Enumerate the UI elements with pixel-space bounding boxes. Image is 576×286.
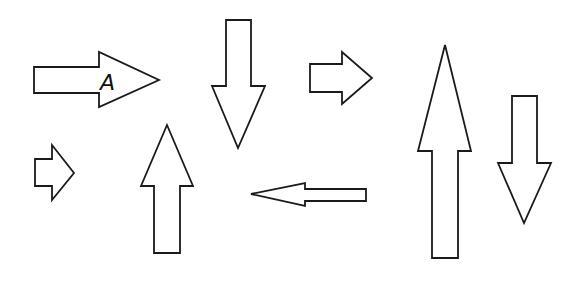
arrow-down-upper [212,20,265,148]
arrows-diagram: A [0,0,576,286]
arrow-left [251,183,366,206]
arrow-down-right [498,96,551,223]
arrow-right-labeled-a [34,52,159,107]
arrow-right-small [35,145,74,200]
arrow-right-medium [310,52,372,104]
arrow-a-label: A [98,70,115,95]
arrow-up-large [418,45,471,258]
arrow-up-small [141,125,193,253]
